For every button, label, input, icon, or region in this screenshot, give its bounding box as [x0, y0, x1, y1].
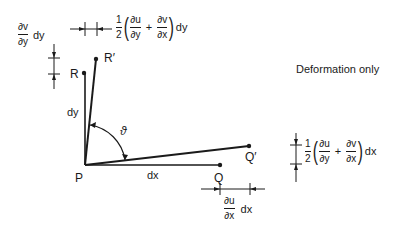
- label-r-prime: R′: [104, 52, 115, 64]
- label-theta: ϑ: [120, 125, 127, 137]
- arc-arrow-bottom: [122, 154, 128, 160]
- label-dy: dy: [67, 107, 79, 118]
- point-r-prime: [94, 57, 98, 61]
- label-dx: dx: [147, 170, 159, 181]
- arc-arrow-top: [90, 122, 96, 128]
- label-q: Q: [214, 172, 223, 184]
- label-q-prime: Q′: [245, 151, 257, 163]
- segment-pr-prime: [85, 59, 96, 165]
- expr-shear-right: 12 ( ∂u∂y + ∂v∂x ) dx: [303, 138, 376, 164]
- dim-top-shear: [70, 22, 112, 36]
- segment-pq-prime: [85, 146, 249, 165]
- deformation-diagram: [0, 0, 406, 238]
- deformation-only-label: Deformation only: [296, 64, 379, 75]
- point-q: [218, 163, 222, 167]
- point-q-prime: [247, 144, 251, 148]
- expr-dv-dy: ∂v∂y dy: [16, 22, 45, 47]
- expr-shear-top: 12 ( ∂u∂y + ∂v∂x ) dy: [114, 14, 187, 40]
- dim-left-vertical: [48, 44, 60, 89]
- label-r: R: [70, 68, 79, 80]
- point-r: [82, 71, 86, 75]
- expr-du-dx: ∂u∂x dx: [222, 196, 252, 221]
- label-p: P: [75, 172, 83, 184]
